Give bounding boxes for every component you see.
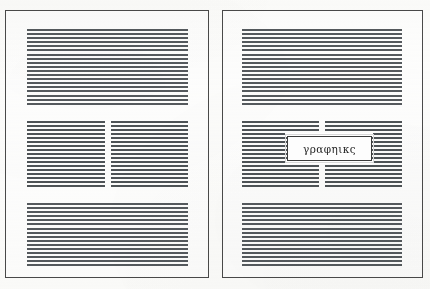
right-bottom-text-block: [242, 203, 402, 269]
caption-label: γραφηικς: [303, 142, 356, 155]
left-top-text-block: [27, 29, 188, 107]
caption-box[interactable]: γραφηικς: [287, 136, 372, 161]
figure-canvas: γραφηικς: [0, 0, 430, 289]
page-left: [5, 10, 209, 278]
right-top-text-block: [242, 29, 402, 107]
left-middle-column-1: [27, 121, 105, 189]
left-bottom-text-block: [27, 203, 188, 269]
left-middle-column-2: [111, 121, 188, 189]
page-right: γραφηικς: [222, 10, 423, 278]
